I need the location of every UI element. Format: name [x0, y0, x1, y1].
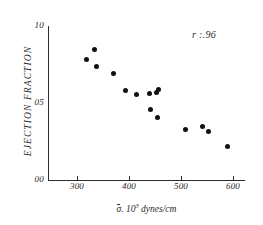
x-tick-400 — [129, 176, 130, 180]
data-point — [148, 107, 153, 112]
x-tick-label-300: 300 — [62, 181, 92, 191]
data-point — [84, 57, 89, 62]
data-point — [92, 47, 97, 52]
x-tick-300 — [77, 176, 78, 180]
x-tick-600 — [233, 176, 234, 180]
sigma-bar-symbol: σ — [117, 203, 122, 214]
x-tick-500 — [181, 176, 182, 180]
x-tick-label-400: 400 — [114, 181, 144, 191]
data-point — [94, 64, 99, 69]
data-point — [123, 88, 128, 93]
data-point — [155, 115, 160, 120]
data-point — [200, 124, 205, 129]
correlation-annotation: r :.96 — [192, 29, 216, 40]
y-axis-title: EJECTION FRACTION — [23, 21, 33, 181]
data-point — [156, 87, 161, 92]
y-axis-line — [48, 26, 49, 181]
data-point — [147, 91, 152, 96]
data-point — [183, 127, 188, 132]
x-axis-title-separator: . 10 — [121, 204, 135, 214]
x-tick-label-600: 600 — [218, 181, 248, 191]
data-point — [134, 92, 139, 97]
data-point — [111, 71, 116, 76]
data-point — [225, 144, 230, 149]
x-axis-title-units: dynes/cm — [139, 204, 177, 214]
scatter-plot-figure: 300400500600 000510 r :.96 σ. 103 dynes/… — [0, 0, 263, 225]
data-point — [206, 129, 211, 134]
x-axis-title: σ. 103 dynes/cm — [48, 202, 245, 214]
x-tick-label-500: 500 — [166, 181, 196, 191]
